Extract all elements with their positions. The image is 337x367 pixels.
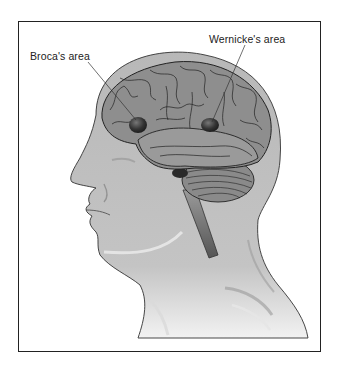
wernicke-area-highlight bbox=[201, 118, 219, 132]
wernicke-area-label: Wernicke's area bbox=[209, 33, 285, 45]
broca-area-highlight bbox=[129, 117, 147, 133]
broca-area-label: Broca's area bbox=[30, 50, 90, 62]
